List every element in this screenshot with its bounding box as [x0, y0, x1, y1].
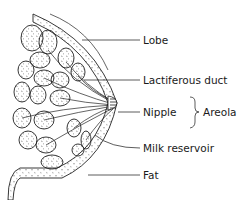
label-areola: Areola	[203, 106, 237, 118]
breast-anatomy-diagram: Lobe Lactiferous duct Nipple Areola Milk…	[0, 0, 251, 200]
label-lobe: Lobe	[143, 34, 168, 46]
label-fat: Fat	[143, 169, 159, 181]
label-milk-reservoir: Milk reservoir	[143, 142, 214, 154]
anatomy-illustration	[0, 0, 251, 200]
leader-lines	[82, 40, 199, 175]
label-nipple: Nipple	[143, 106, 176, 118]
label-lactiferous-duct: Lactiferous duct	[143, 74, 227, 86]
